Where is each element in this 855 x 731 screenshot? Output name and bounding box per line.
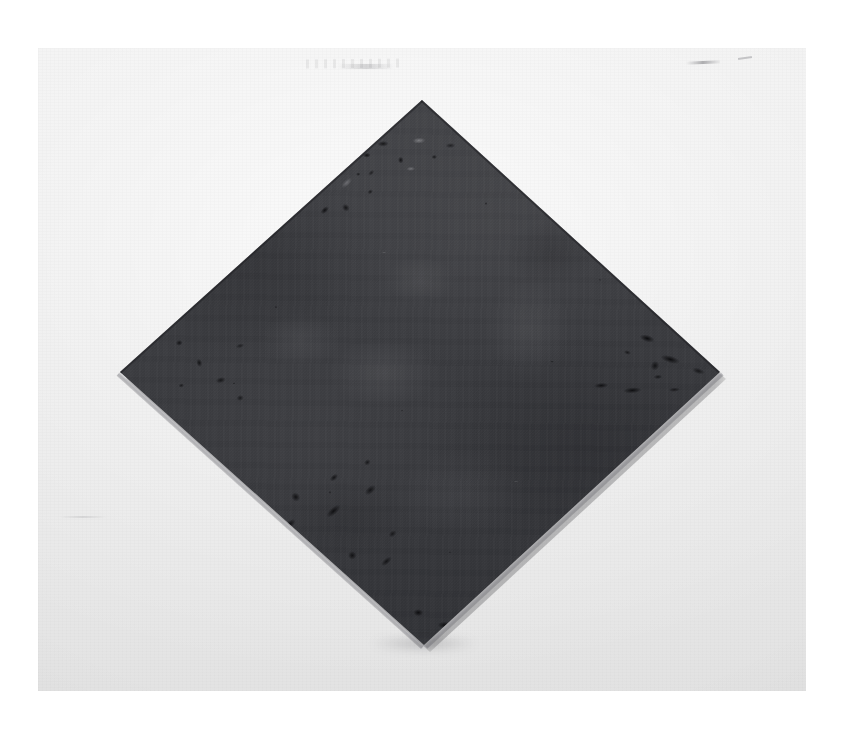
photograph-canvas [0, 0, 855, 731]
photographic-print [38, 48, 806, 691]
